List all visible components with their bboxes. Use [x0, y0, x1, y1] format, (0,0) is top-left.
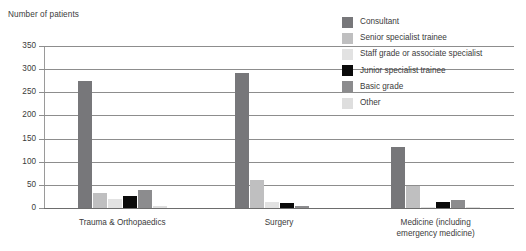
- x-axis-category-label-line: Trauma & Orthopaedics: [52, 218, 192, 229]
- bar: [153, 206, 167, 208]
- y-axis-tick-label: 100: [2, 158, 36, 166]
- y-axis-tick-label: 0: [2, 204, 36, 212]
- legend-swatch-icon: [342, 98, 353, 109]
- bar: [421, 207, 435, 208]
- legend-item-label: Basic grade: [360, 83, 403, 91]
- legend-item-label: Junior specialist trainee: [360, 67, 446, 75]
- bar: [451, 200, 465, 208]
- x-axis-category-label: Medicine (includingemergency medicine): [366, 218, 506, 239]
- bar: [250, 180, 264, 208]
- bar: [436, 202, 450, 208]
- bar: [108, 199, 122, 208]
- bar: [466, 207, 480, 208]
- legend-item[interactable]: Other: [342, 95, 526, 111]
- bar: [280, 203, 294, 208]
- legend-swatch-icon: [342, 49, 353, 60]
- y-axis-tick-label: 50: [2, 181, 36, 189]
- bar-group: [78, 46, 167, 208]
- bar: [406, 186, 420, 208]
- y-axis-tick-label: 150: [2, 134, 36, 142]
- y-axis-tick-label: 350: [2, 42, 36, 50]
- legend-item[interactable]: Junior specialist trainee: [342, 63, 526, 79]
- y-axis-tick-label: 200: [2, 111, 36, 119]
- gridline: [44, 208, 514, 209]
- legend-item-label: Consultant: [360, 18, 399, 26]
- x-axis-category-label-line: Surgery: [209, 218, 349, 229]
- x-axis-category-label: Trauma & Orthopaedics: [52, 218, 192, 229]
- tick-mark: [39, 208, 44, 209]
- legend-item[interactable]: Senior specialist trainee: [342, 30, 526, 46]
- legend-item[interactable]: Basic grade: [342, 79, 526, 95]
- bar: [93, 193, 107, 208]
- bar: [138, 190, 152, 208]
- legend-swatch-icon: [342, 81, 353, 92]
- bar: [235, 73, 249, 208]
- x-axis-category-label: Surgery: [209, 218, 349, 229]
- bar: [295, 206, 309, 208]
- bar-chart: Number of patients 350300250200150100500…: [0, 0, 526, 251]
- legend-item-label: Other: [360, 99, 380, 107]
- legend-swatch-icon: [342, 33, 353, 44]
- y-axis-tick-label: 300: [2, 65, 36, 73]
- x-axis-category-label-line: emergency medicine): [366, 229, 506, 240]
- bar: [265, 202, 279, 208]
- legend-item[interactable]: Consultant: [342, 14, 526, 30]
- legend-item-label: Senior specialist trainee: [360, 34, 447, 42]
- y-axis-tick-label: 250: [2, 88, 36, 96]
- bar: [123, 196, 137, 208]
- chart-legend: ConsultantSenior specialist traineeStaff…: [342, 14, 526, 111]
- x-axis-category-label-line: Medicine (including: [366, 218, 506, 229]
- bar: [78, 81, 92, 208]
- legend-item-label: Staff grade or associate specialist: [360, 50, 482, 58]
- bar-group: [235, 46, 324, 208]
- bar: [391, 147, 405, 208]
- legend-swatch-icon: [342, 17, 353, 28]
- y-axis-title: Number of patients: [8, 10, 79, 19]
- legend-item[interactable]: Staff grade or associate specialist: [342, 46, 526, 62]
- legend-swatch-icon: [342, 65, 353, 76]
